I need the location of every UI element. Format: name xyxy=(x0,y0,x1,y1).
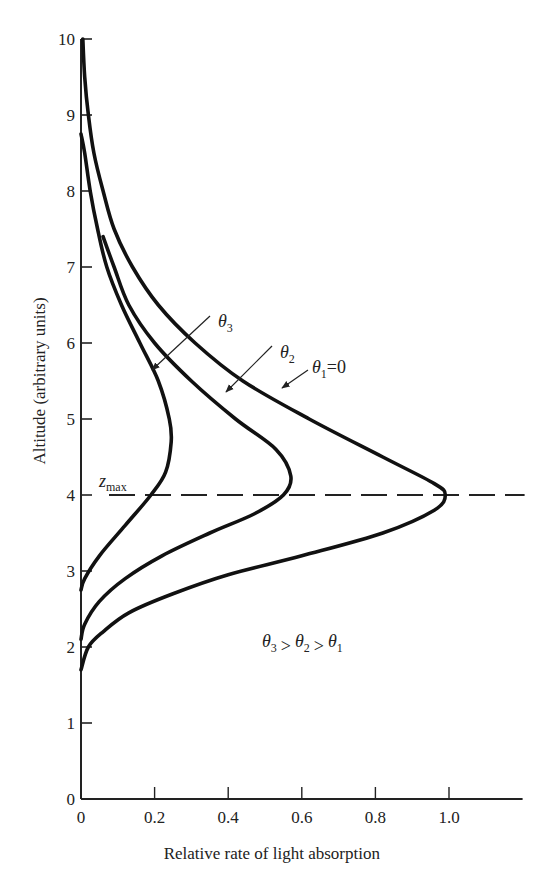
x-tick-label: 1.0 xyxy=(438,808,459,827)
x-tick-label: 0.8 xyxy=(365,808,386,827)
y-tick-label: 1 xyxy=(67,714,76,733)
x-axis-title: Relative rate of light absorption xyxy=(164,844,381,863)
annotations: zmaxθ3θ2θ1=0θ3>θ2>θ1 xyxy=(98,311,346,656)
y-tick-label: 4 xyxy=(67,486,76,505)
y-tick-label: 3 xyxy=(67,562,76,581)
curve-theta2 xyxy=(81,237,291,640)
inequality-annotation: θ3>θ2>θ1 xyxy=(262,631,343,656)
y-tick-label: 6 xyxy=(67,334,76,353)
y-tick-label: 0 xyxy=(67,790,76,809)
y-tick-label: 2 xyxy=(67,638,76,657)
x-tick-label: 0.4 xyxy=(218,808,240,827)
axes: 01234567891000.20.40.60.81.0Relative rat… xyxy=(30,30,525,863)
label-theta3-arrow xyxy=(152,316,210,370)
x-tick-label: 0 xyxy=(77,808,86,827)
label-theta1: θ1=0 xyxy=(312,357,346,381)
y-axis-title: Altitude (arbitrary units) xyxy=(30,297,49,464)
y-tick-label: 9 xyxy=(67,106,76,125)
y-tick-label: 5 xyxy=(67,410,76,429)
x-tick-label: 0.2 xyxy=(144,808,165,827)
x-tick-label: 0.6 xyxy=(291,808,312,827)
zmax-label: zmax xyxy=(98,471,127,494)
y-tick-label: 7 xyxy=(67,258,76,277)
label-theta3: θ3 xyxy=(218,311,233,335)
curve-theta3 xyxy=(81,134,171,590)
y-tick-label: 10 xyxy=(58,30,75,49)
label-theta1-arrow xyxy=(282,370,308,388)
y-tick-label: 8 xyxy=(67,182,76,201)
chart-canvas: 01234567891000.20.40.60.81.0Relative rat… xyxy=(0,0,555,878)
label-theta2: θ2 xyxy=(280,342,295,366)
